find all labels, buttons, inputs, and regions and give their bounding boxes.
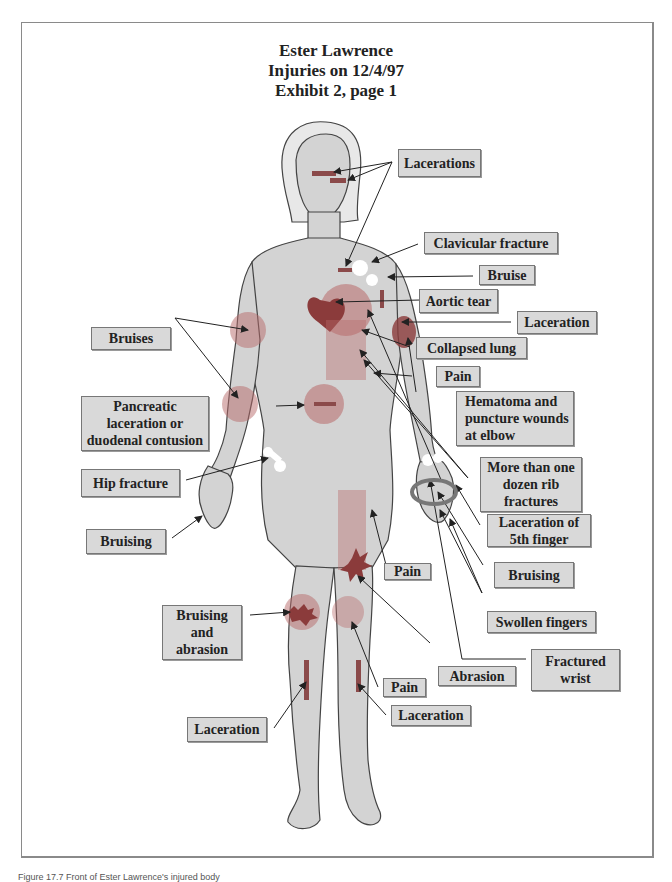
label-pain-chest: Pain bbox=[436, 366, 480, 387]
figure-caption: Figure 17.7 Front of Ester Lawrence's in… bbox=[18, 872, 220, 882]
label-laceration-finger: Laceration of 5th finger bbox=[487, 514, 591, 547]
label-lacerations-head: Lacerations bbox=[398, 149, 481, 177]
left-hand bbox=[416, 460, 453, 522]
clavicle-fracture-bone bbox=[352, 260, 368, 276]
label-bruise-shoulder: Bruise bbox=[479, 265, 535, 285]
arm-bruise-lower bbox=[222, 386, 258, 422]
chest-laceration bbox=[338, 268, 352, 272]
label-bruises-right-arm: Bruises bbox=[91, 327, 171, 350]
right-shin-laceration bbox=[304, 660, 309, 700]
label-laceration-right-shin: Laceration bbox=[187, 717, 267, 742]
label-bruising-abrasion-knee: Bruising and abrasion bbox=[162, 605, 242, 660]
label-swollen-fingers: Swollen fingers bbox=[487, 611, 596, 633]
label-clavicular-fracture: Clavicular fracture bbox=[424, 232, 558, 254]
label-fractured-wrist: Fractured wrist bbox=[531, 649, 620, 691]
pancreatic-laceration bbox=[314, 402, 336, 406]
left-knee-bruise bbox=[332, 596, 364, 628]
label-pain-knee: Pain bbox=[383, 678, 426, 697]
label-bruising-right-hand: Bruising bbox=[86, 529, 166, 554]
label-laceration-left-shin: Laceration bbox=[391, 705, 471, 726]
label-pancreatic: Pancreatic laceration or duodenal contus… bbox=[81, 396, 209, 451]
label-aortic-tear: Aortic tear bbox=[419, 289, 498, 313]
right-arm bbox=[210, 262, 260, 478]
label-hip-fracture: Hip fracture bbox=[81, 469, 180, 497]
elbow-hematoma bbox=[392, 316, 416, 348]
label-laceration-arm: Laceration bbox=[517, 311, 597, 334]
forehead-laceration-1 bbox=[312, 171, 336, 176]
label-abrasion-thigh: Abrasion bbox=[438, 666, 516, 686]
neck bbox=[308, 212, 340, 240]
label-pain-abdomen: Pain bbox=[384, 563, 431, 580]
label-collapsed-lung: Collapsed lung bbox=[416, 337, 527, 359]
label-hematoma: Hematoma and puncture wounds at elbow bbox=[456, 391, 574, 446]
label-bruising-left-hand: Bruising bbox=[494, 562, 574, 588]
label-rib-fractures: More than one dozen rib fractures bbox=[480, 457, 582, 512]
arm-laceration bbox=[380, 290, 384, 308]
forehead-laceration-2 bbox=[330, 178, 346, 183]
